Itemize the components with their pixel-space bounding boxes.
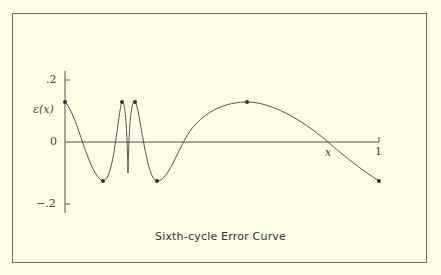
extremum-point <box>155 179 159 183</box>
extremum-point <box>133 100 137 104</box>
extremum-point <box>377 179 381 183</box>
extremum-point <box>101 179 105 183</box>
y-tick-label-bottom: −.2 <box>36 197 56 210</box>
y-axis-label: ε(x) <box>33 103 54 116</box>
extremum-point <box>63 100 67 104</box>
y-tick-label-top: .2 <box>46 73 57 86</box>
y-tick-label-zero: 0 <box>50 135 57 148</box>
x-tick-label-end: 1 <box>375 145 382 158</box>
error-curve <box>65 102 379 181</box>
x-root-label: x <box>325 146 331 159</box>
extremum-point <box>120 100 124 104</box>
extremum-point <box>245 100 249 104</box>
chart-title: Sixth-cycle Error Curve <box>0 230 441 243</box>
